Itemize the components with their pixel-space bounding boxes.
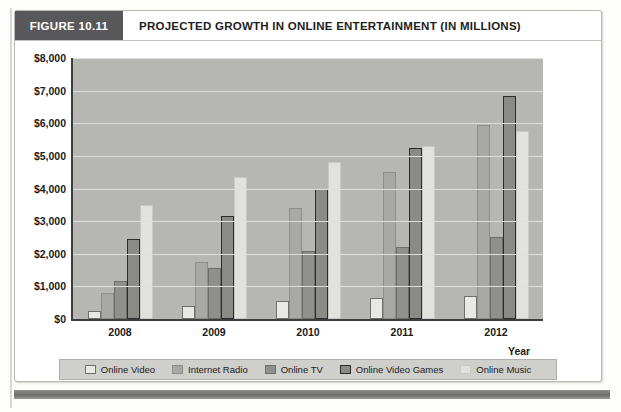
legend-swatch-online-video-games [340,365,351,374]
y-axis-tick-label: $6,000 [34,117,66,129]
page-footer-rule [14,390,610,399]
figure-page: FIGURE 10.11 PROJECTED GROWTH IN ONLINE … [0,0,621,412]
bar-online-tv-2011 [396,247,409,319]
gridline [73,123,543,124]
bar-internet-radio-2010 [289,208,302,319]
y-axis-tick-label: $4,000 [34,183,66,195]
gridline [73,58,543,59]
gridline [73,189,543,190]
legend-item-online-music[interactable]: Online Music [460,364,531,375]
legend-label: Online TV [281,364,323,375]
legend-item-online-video[interactable]: Online Video [85,364,155,375]
y-axis-tick-label: $3,000 [34,215,66,227]
gridline [73,91,543,92]
bar-online-video-2010 [276,301,289,319]
bar-online-video-games-2008 [127,239,140,319]
y-axis-tick-label: $2,000 [34,248,66,260]
x-axis-title: Year [508,345,530,357]
legend-swatch-online-music [460,365,471,374]
y-axis-tick-label: $0 [54,313,66,325]
legend-item-internet-radio[interactable]: Internet Radio [172,364,248,375]
plot-area: 20082009201020112012 $0$1,000$2,000$3,00… [71,58,543,321]
x-axis-tick-label-2009: 2009 [202,326,225,338]
y-axis-tick-label: $7,000 [34,85,66,97]
chart-area: 20082009201020112012 $0$1,000$2,000$3,00… [15,41,601,381]
x-axis-tick-label-2012: 2012 [484,326,507,338]
gridline [73,221,543,222]
y-axis-tick-label: $1,000 [34,280,66,292]
bar-online-video-2009 [182,306,195,319]
bar-online-video-2008 [88,311,101,319]
legend-label: Online Video [101,364,155,375]
x-axis-tick-label-2010: 2010 [296,326,319,338]
bar-online-music-2011 [422,146,435,319]
figure-number-tag: FIGURE 10.11 [15,11,123,40]
legend-label: Online Music [476,364,531,375]
bar-online-music-2009 [234,177,247,319]
y-axis-tick-label: $5,000 [34,150,66,162]
bar-internet-radio-2008 [101,293,114,319]
bar-internet-radio-2009 [195,262,208,319]
gridline [73,254,543,255]
chart-legend: Online VideoInternet RadioOnline TVOnlin… [59,359,557,380]
legend-item-online-tv[interactable]: Online TV [265,364,323,375]
legend-item-online-video-games[interactable]: Online Video Games [340,364,444,375]
figure-box: FIGURE 10.11 PROJECTED GROWTH IN ONLINE … [14,10,602,382]
legend-label: Internet Radio [188,364,248,375]
y-axis-tick-label: $8,000 [34,52,66,64]
gridline [73,156,543,157]
legend-swatch-online-video [85,365,96,374]
bar-online-video-2011 [370,298,383,319]
bar-online-video-games-2011 [409,148,422,319]
bar-online-tv-2012 [490,237,503,319]
figure-header: FIGURE 10.11 PROJECTED GROWTH IN ONLINE … [15,11,601,41]
plot-outer: 20082009201020112012 $0$1,000$2,000$3,00… [71,58,543,321]
figure-title: PROJECTED GROWTH IN ONLINE ENTERTAINMENT… [123,11,601,40]
bar-online-video-games-2009 [221,216,234,319]
x-axis-tick-label-2011: 2011 [391,326,414,338]
bar-internet-radio-2011 [383,172,396,319]
legend-swatch-internet-radio [172,365,183,374]
bar-online-music-2012 [516,131,529,319]
legend-swatch-online-tv [265,365,276,374]
bar-online-video-2012 [464,296,477,319]
page-left-edge [10,8,12,408]
legend-label: Online Video Games [356,364,444,375]
bar-online-tv-2010 [302,251,315,320]
x-axis-tick-label-2008: 2008 [108,326,131,338]
bar-online-tv-2009 [208,268,221,319]
gridline [73,286,543,287]
bar-online-music-2010 [328,162,341,319]
